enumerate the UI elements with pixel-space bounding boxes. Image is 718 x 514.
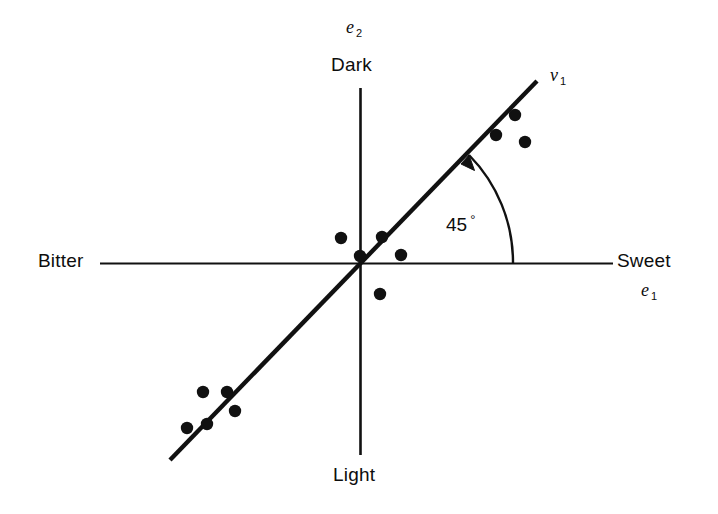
data-point [335,232,347,244]
data-point [374,288,386,300]
scatter-points [181,109,531,434]
diagram-canvas [0,0,718,514]
y-axis-symbol-label: e2 [346,18,360,36]
x-axis-positive-label: Sweet [617,251,671,270]
y-axis-negative-label: Light [333,465,375,484]
angle-label: 45° [446,213,475,234]
data-point [229,405,241,417]
data-point [181,422,193,434]
data-point [201,418,213,430]
data-point [376,231,388,243]
principal-axis-label: v1 [550,66,564,84]
data-point [509,109,521,121]
angle-arc-45 [461,155,513,263]
data-point [354,250,366,262]
x-axis-symbol-label: e1 [641,281,655,299]
y-axis-positive-label: Dark [331,55,372,74]
data-point [490,129,502,141]
data-point [519,136,531,148]
x-axis-negative-label: Bitter [38,251,84,270]
data-point [395,249,407,261]
principal-axis-v1-line [170,81,537,460]
principal-component-diagram: e2 Dark v1 Bitter Sweet e1 Light 45° [0,0,718,514]
data-point [221,386,233,398]
data-point [197,386,209,398]
